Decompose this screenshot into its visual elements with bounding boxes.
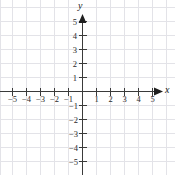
y-tick-label-4: 4 — [73, 31, 77, 40]
y-tick-label-1: 1 — [73, 73, 77, 82]
x-tick-label--2: −2 — [50, 95, 59, 104]
y-axis-label: y — [78, 1, 82, 11]
y-tick-label--4: −4 — [69, 143, 78, 152]
axes-and-ticks — [0, 0, 175, 175]
coordinate-plane-figure: −5 −4 −3 −2 −1 1 2 3 4 5 5 4 3 2 1 −1 −2… — [0, 0, 175, 175]
y-tick-label-2: 2 — [73, 59, 77, 68]
x-tick-label-1: 1 — [94, 95, 98, 104]
x-tick-label-3: 3 — [122, 95, 126, 104]
x-axis-label: x — [165, 85, 169, 95]
x-axis-arrowhead — [154, 88, 163, 96]
y-axis-arrowhead — [79, 14, 87, 23]
x-tick-label--3: −3 — [36, 95, 45, 104]
x-tick-label-2: 2 — [108, 95, 112, 104]
y-tick-label--3: −3 — [69, 129, 78, 138]
x-tick-label-5: 5 — [150, 95, 154, 104]
x-tick-label-4: 4 — [136, 95, 140, 104]
y-tick-label-5: 5 — [73, 17, 77, 26]
x-tick-label--4: −4 — [22, 95, 31, 104]
y-tick-label-3: 3 — [73, 45, 77, 54]
y-tick-label--5: −5 — [69, 157, 78, 166]
y-tick-label--1: −1 — [69, 101, 78, 110]
y-tick-label--2: −2 — [69, 115, 78, 124]
x-tick-label--5: −5 — [8, 95, 17, 104]
